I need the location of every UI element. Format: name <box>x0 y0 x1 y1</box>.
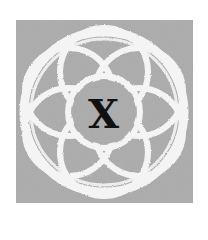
center-letter: X <box>16 20 193 203</box>
